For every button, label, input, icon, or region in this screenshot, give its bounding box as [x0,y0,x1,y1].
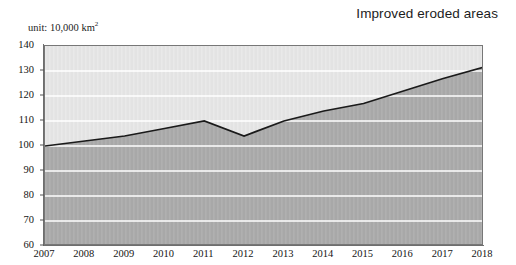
x-tick-label: 2014 [312,248,333,259]
y-tick-label: 120 [18,90,34,101]
y-tick-label: 80 [24,190,35,201]
x-tick-label: 2011 [193,248,214,259]
y-tick-label: 70 [24,215,35,226]
unit-exponent: 2 [95,20,99,28]
x-tick-label: 2009 [113,248,134,259]
x-tick-label: 2013 [272,248,293,259]
area-chart-svg [45,46,483,245]
x-tick-label: 2010 [153,248,174,259]
y-tick-label: 130 [18,65,34,76]
y-tick-label: 90 [24,165,35,176]
x-tick-label: 2018 [472,248,493,259]
plot-area [44,45,483,245]
x-tick-label: 2008 [73,248,94,259]
x-tick-label: 2015 [352,248,373,259]
x-tick-label: 2016 [392,248,413,259]
x-axis: 2007200820092010201120122013201420152016… [0,246,516,265]
y-tick-label: 140 [18,40,34,51]
page-title: Improved eroded areas [356,6,498,21]
unit-label: unit: 10,000 km2 [28,20,98,33]
x-tick-label: 2007 [34,248,55,259]
y-axis: 14013012011010090807060 [0,45,40,245]
x-tick-label: 2012 [233,248,254,259]
chart-root: Improved eroded areas unit: 10,000 km2 1… [0,0,516,265]
y-tick-label: 100 [18,140,34,151]
x-tick-label: 2017 [432,248,453,259]
y-tick-label: 110 [19,115,34,126]
unit-label-text: unit: 10,000 km [28,22,95,33]
